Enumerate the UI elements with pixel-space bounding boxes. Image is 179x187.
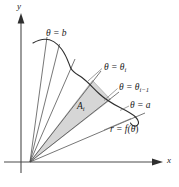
label-curve-equation: r = f(θ)	[110, 125, 139, 135]
x-axis	[4, 158, 163, 165]
y-axis-label: y	[17, 2, 21, 11]
area-label-subscript: i	[83, 105, 85, 112]
label-area-element: Ai	[77, 102, 85, 112]
x-axis-label: x	[167, 156, 171, 165]
area-label-main: A	[77, 101, 83, 111]
label-theta-i-minus-1-main: θ = θ	[119, 82, 140, 92]
polar-area-figure: y x θ = b θ = θi θ = θi−1 θ = a r = f(θ)…	[0, 0, 179, 187]
label-theta-equals-b: θ = b	[46, 29, 67, 39]
label-theta-equals-theta-i-minus-1: θ = θi−1	[119, 83, 149, 93]
label-theta-i-minus-1-subscript: i−1	[140, 86, 150, 93]
label-theta-equals-theta-i: θ = θi	[104, 63, 126, 73]
label-theta-i-subscript: i	[125, 66, 127, 73]
figure-canvas	[0, 0, 179, 187]
y-axis	[18, 13, 25, 173]
curve-label-suffix: )	[135, 124, 138, 134]
curve-label-prefix: r = f(	[110, 124, 131, 134]
label-theta-i-main: θ = θ	[104, 62, 125, 72]
ray-theta-i-minus-1	[30, 92, 119, 162]
label-theta-equals-a: θ = a	[130, 101, 151, 111]
ray-theta-a	[30, 113, 145, 162]
